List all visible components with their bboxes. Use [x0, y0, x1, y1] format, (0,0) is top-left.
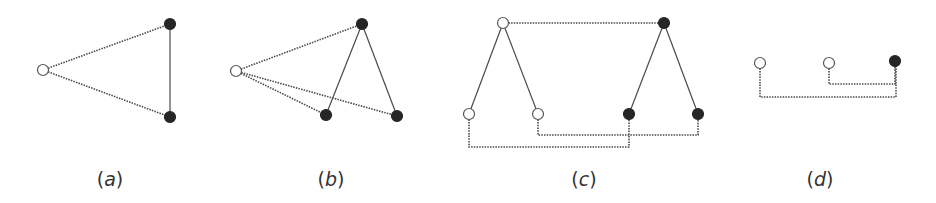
panel-label: (b)	[318, 168, 345, 190]
dotted-edge	[236, 71, 397, 116]
filled-node	[890, 56, 901, 67]
panel-b	[231, 19, 403, 122]
open-node	[755, 58, 766, 69]
graph-diagram	[0, 0, 936, 203]
panel-d	[755, 56, 901, 98]
filled-node	[165, 112, 176, 123]
open-node	[231, 66, 242, 77]
filled-node	[624, 109, 635, 120]
panel-label: (d)	[807, 168, 834, 190]
dotted-edge	[538, 114, 698, 135]
filled-node	[392, 111, 403, 122]
filled-node	[321, 110, 332, 121]
open-node	[464, 109, 475, 120]
dotted-edge	[829, 61, 895, 84]
open-node	[533, 109, 544, 120]
panel-label: (c)	[571, 168, 596, 190]
panel-c	[464, 18, 704, 148]
dotted-edge	[236, 24, 362, 71]
filled-node	[659, 18, 670, 29]
solid-edge	[503, 23, 538, 114]
open-node	[824, 58, 835, 69]
dotted-edge	[43, 24, 170, 70]
panel-a	[38, 19, 176, 123]
solid-edge	[629, 23, 664, 114]
solid-edge	[664, 23, 698, 114]
solid-edge	[362, 24, 397, 116]
filled-node	[165, 19, 176, 30]
dotted-edge	[43, 70, 170, 117]
dotted-edge	[469, 114, 629, 147]
solid-edge	[469, 23, 503, 114]
filled-node	[693, 109, 704, 120]
open-node	[498, 18, 509, 29]
panel-label: (a)	[97, 168, 124, 190]
filled-node	[357, 19, 368, 30]
open-node	[38, 65, 49, 76]
